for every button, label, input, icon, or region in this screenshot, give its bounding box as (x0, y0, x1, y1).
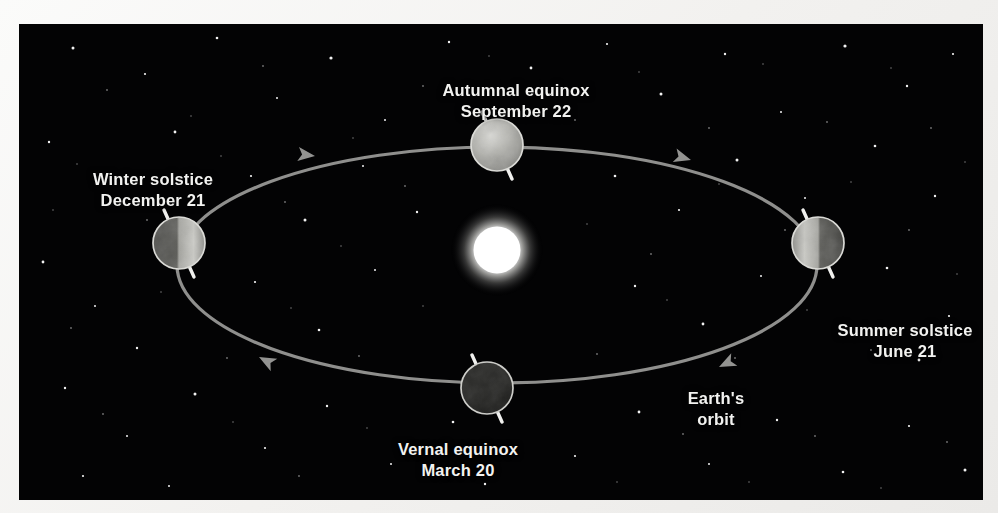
starfield-panel: Autumnal equinox September 22 Winter sol… (19, 24, 983, 500)
orbit-illustration (19, 24, 983, 500)
earth-winter-solstice (151, 210, 207, 277)
orbit-arrow-bottom-left (256, 351, 278, 371)
earth-autumnal-equinox (469, 112, 525, 179)
orbit-arrow-bottom-right (716, 353, 737, 373)
orbit-arrow-top-right (673, 149, 693, 167)
earth-summer-solstice (790, 210, 846, 277)
sun-disc (474, 227, 521, 274)
orbit-arrow-top-left (297, 147, 316, 163)
sun (451, 204, 543, 296)
earth-vernal-equinox (459, 355, 515, 422)
seasons-diagram: Autumnal equinox September 22 Winter sol… (0, 0, 998, 513)
